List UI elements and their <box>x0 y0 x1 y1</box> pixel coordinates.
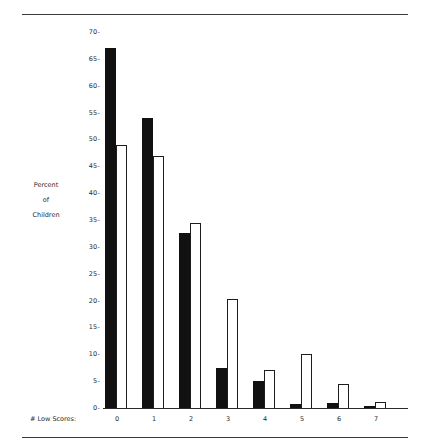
y-axis-tick-label: 50- <box>62 139 100 147</box>
y-axis-tick-label: 10- <box>62 354 100 362</box>
y-axis-tick-label: 5- <box>62 381 100 389</box>
bar-light-5[interactable] <box>301 354 312 408</box>
bar-dark-1[interactable] <box>142 118 153 408</box>
x-axis-tick-label: 4 <box>253 415 277 423</box>
y-axis-title-line-2: of <box>18 193 74 208</box>
bar-dark-6[interactable] <box>327 403 338 408</box>
bar-light-1[interactable] <box>153 156 164 408</box>
bar-light-0[interactable] <box>116 145 127 408</box>
bar-dark-5[interactable] <box>290 404 301 408</box>
y-axis-title: Percent of Children <box>18 178 74 223</box>
bar-light-3[interactable] <box>227 299 238 408</box>
x-axis-tick-label: 1 <box>142 415 166 423</box>
bar-group <box>364 32 388 408</box>
x-axis-tick-label: 7 <box>364 415 388 423</box>
y-axis-tick-label: 55- <box>62 113 100 121</box>
x-axis-title: # Low Scores: <box>30 415 76 423</box>
y-axis-title-line-1: Percent <box>18 178 74 193</box>
bar-light-6[interactable] <box>338 384 349 408</box>
x-axis-tick-label: 5 <box>290 415 314 423</box>
x-axis-tick-label: 2 <box>179 415 203 423</box>
bar-light-4[interactable] <box>264 370 275 408</box>
y-axis-tick-label: 70- <box>62 32 100 40</box>
bar-dark-4[interactable] <box>253 381 264 408</box>
bar-group <box>253 32 277 408</box>
bar-group <box>105 32 129 408</box>
y-axis-tick-label: 65- <box>62 59 100 67</box>
bar-dark-2[interactable] <box>179 233 190 408</box>
y-axis-tick-label: 45- <box>62 166 100 174</box>
bar-light-7[interactable] <box>375 402 386 408</box>
bar-chart-plot-area: 0-5-10-15-20-25-30-35-40-45-50-55-60-65-… <box>0 0 429 446</box>
bar-dark-7[interactable] <box>364 406 375 408</box>
x-axis-baseline <box>103 408 408 409</box>
y-axis-tick-label: 25- <box>62 274 100 282</box>
y-axis-tick-label: 15- <box>62 327 100 335</box>
bar-group <box>179 32 203 408</box>
bar-dark-0[interactable] <box>105 48 116 408</box>
y-axis-tick-label: 30- <box>62 247 100 255</box>
bar-group <box>327 32 351 408</box>
x-axis-tick-label: 0 <box>105 415 129 423</box>
x-axis-tick-label: 6 <box>327 415 351 423</box>
bar-group <box>290 32 314 408</box>
bar-light-2[interactable] <box>190 223 201 408</box>
bar-dark-3[interactable] <box>216 368 227 408</box>
y-axis-title-line-3: Children <box>18 208 74 223</box>
bar-group <box>216 32 240 408</box>
y-axis-tick-label: 20- <box>62 301 100 309</box>
bar-group <box>142 32 166 408</box>
y-axis-tick-label: 60- <box>62 86 100 94</box>
x-axis-tick-label: 3 <box>216 415 240 423</box>
